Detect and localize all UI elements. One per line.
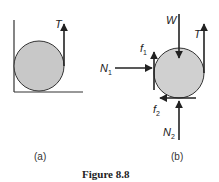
panel-a: T (a) (14, 18, 83, 162)
disk (14, 41, 64, 91)
tension-label: T (55, 18, 63, 30)
panel-a-label: (a) (34, 151, 46, 162)
weight-label: W (166, 14, 178, 26)
figure-8-8: T (a) W T N1 f1 f2 N2 (b) Figure 8.8 (0, 0, 219, 182)
normal-1-label: N1 (100, 62, 112, 76)
panel-b: W T N1 f1 f2 N2 (b) (100, 14, 204, 162)
friction-2-label: f2 (153, 103, 160, 117)
panel-b-label: (b) (171, 151, 183, 162)
figure-caption: Figure 8.8 (82, 168, 130, 180)
normal-2-label: N2 (163, 126, 175, 140)
figure-canvas: T (a) W T N1 f1 f2 N2 (b) Figure 8.8 (0, 0, 219, 182)
friction-1-label: f1 (140, 42, 147, 56)
tension-label: T (194, 28, 202, 40)
